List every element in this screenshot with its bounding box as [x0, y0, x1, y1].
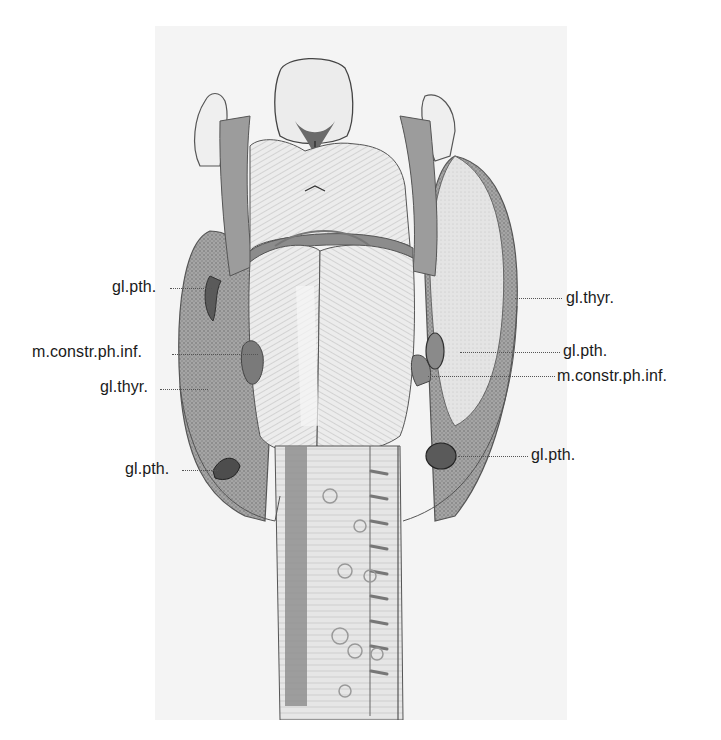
- label-left-parathyroid-upper: gl.pth.: [112, 278, 156, 296]
- label-left-thyroid: gl.thyr.: [100, 378, 148, 396]
- leader-line: [515, 298, 562, 299]
- label-right-thyroid: gl.thyr.: [566, 289, 614, 307]
- leader-line: [160, 389, 208, 390]
- anatomical-figure: gl.pth. m.constr.ph.inf. gl.thyr. gl.pth…: [0, 0, 721, 740]
- leader-line: [170, 288, 212, 289]
- larynx-illustration: [155, 26, 567, 720]
- label-right-parathyroid-upper: gl.pth.: [563, 342, 607, 360]
- leader-line: [428, 376, 555, 377]
- label-left-parathyroid-lower: gl.pth.: [125, 460, 169, 478]
- leader-line: [458, 456, 528, 457]
- leader-line: [172, 354, 258, 355]
- illustration-plate: [155, 26, 567, 720]
- label-right-parathyroid-lower: gl.pth.: [531, 446, 575, 464]
- label-right-inferior-constrictor: m.constr.ph.inf.: [557, 367, 667, 385]
- leader-line: [460, 352, 560, 353]
- leader-line: [182, 470, 218, 471]
- label-left-inferior-constrictor: m.constr.ph.inf.: [32, 343, 142, 361]
